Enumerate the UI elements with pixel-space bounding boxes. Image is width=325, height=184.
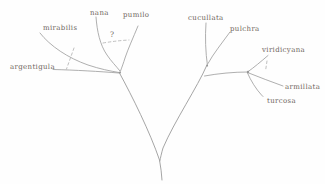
branch-cucullata bbox=[206, 23, 208, 66]
taxon-label-turcosa: turcosa bbox=[267, 97, 296, 105]
branch-turcosa bbox=[248, 73, 264, 97]
taxon-label-viridicyana: viridicyana bbox=[261, 46, 305, 54]
stem-left-main bbox=[120, 73, 163, 180]
dashed-link-viridicyana-armillata bbox=[266, 61, 268, 71]
node-cucullata-junction bbox=[206, 65, 208, 67]
node-right-junction bbox=[247, 71, 249, 73]
taxon-label-mirabilis: mirabilis bbox=[43, 24, 77, 32]
taxon-label-armillata: armillata bbox=[285, 83, 320, 91]
taxon-label-pumilo: pumilo bbox=[123, 11, 149, 19]
branch-argentigula bbox=[53, 70, 119, 74]
branch-pumilo bbox=[121, 26, 139, 71]
branch-pulchra bbox=[208, 32, 230, 64]
figure-canvas: argentigula mirabilis nana pumilo cucull… bbox=[0, 0, 325, 184]
taxon-label-nana: nana bbox=[90, 9, 109, 17]
dashed-link-nana-pumilo bbox=[103, 40, 129, 43]
uncertainty-question-mark: ? bbox=[110, 30, 114, 39]
taxon-label-argentigula: argentigula bbox=[10, 63, 55, 71]
branch-viridicyana bbox=[248, 56, 269, 73]
branch-right-connector bbox=[205, 72, 248, 76]
taxon-label-pulchra: pulchra bbox=[230, 25, 260, 33]
branch-nana bbox=[96, 17, 120, 71]
tree-diagram: argentigula mirabilis nana pumilo cucull… bbox=[0, 0, 325, 184]
node-left-junction bbox=[119, 71, 121, 73]
taxon-label-cucullata: cucullata bbox=[188, 14, 224, 22]
stem-right-main bbox=[160, 66, 207, 161]
